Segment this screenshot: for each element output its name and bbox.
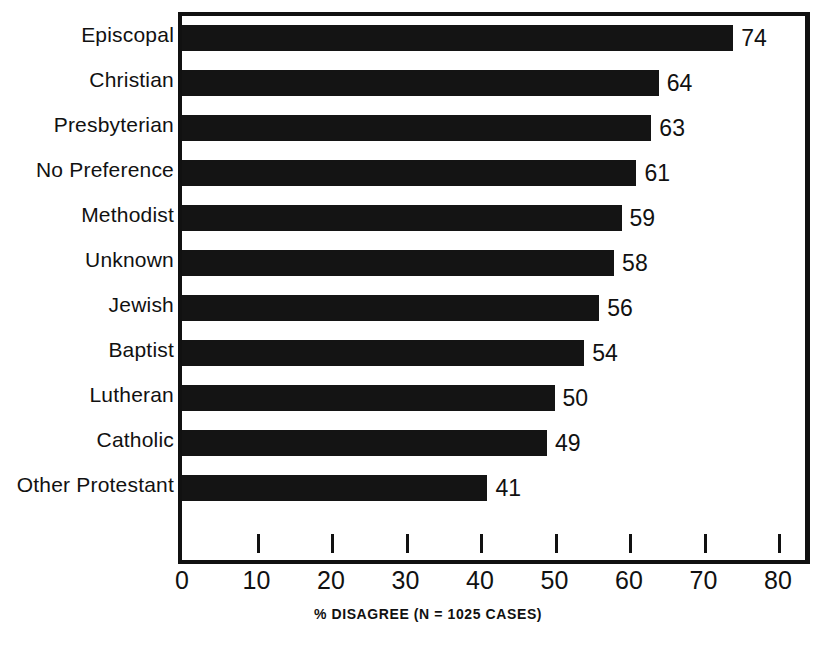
bar-row: Baptist54 bbox=[0, 327, 826, 372]
bar-track: 59 bbox=[182, 192, 812, 237]
category-label: Jewish bbox=[109, 293, 174, 317]
tick-label: 70 bbox=[690, 566, 718, 595]
bar-row: Presbyterian63 bbox=[0, 102, 826, 147]
bar-value-label: 54 bbox=[584, 340, 618, 366]
category-label: Lutheran bbox=[89, 383, 174, 407]
tick-label: 50 bbox=[541, 566, 569, 595]
bar bbox=[182, 160, 636, 186]
bar bbox=[182, 250, 614, 276]
bar bbox=[182, 295, 599, 321]
tick-mark bbox=[704, 534, 707, 553]
bar bbox=[182, 70, 659, 96]
bar-value-label: 63 bbox=[651, 115, 685, 141]
tick-label: 10 bbox=[243, 566, 271, 595]
bar-track: 64 bbox=[182, 57, 812, 102]
bar-chart: Episcopal74Christian64Presbyterian63No P… bbox=[0, 0, 826, 646]
bar-value-label: 61 bbox=[636, 160, 670, 186]
tick-mark bbox=[406, 534, 409, 553]
category-label: Christian bbox=[89, 68, 174, 92]
bar-value-label: 74 bbox=[733, 25, 767, 51]
bar-row: Catholic49 bbox=[0, 417, 826, 462]
category-label: No Preference bbox=[36, 158, 174, 182]
bar-row: Methodist59 bbox=[0, 192, 826, 237]
bar bbox=[182, 25, 733, 51]
category-label: Unknown bbox=[85, 248, 174, 272]
category-label: Baptist bbox=[108, 338, 174, 362]
tick-label: 0 bbox=[175, 566, 189, 595]
bar-track: 61 bbox=[182, 147, 812, 192]
bar-track: 54 bbox=[182, 327, 812, 372]
tick-mark bbox=[555, 534, 558, 553]
bar-value-label: 59 bbox=[622, 205, 656, 231]
tick-mark bbox=[629, 534, 632, 553]
tick-label: 60 bbox=[615, 566, 643, 595]
bar bbox=[182, 340, 584, 366]
category-label: Other Protestant bbox=[17, 473, 174, 497]
bar bbox=[182, 205, 622, 231]
category-label: Episcopal bbox=[81, 23, 174, 47]
tick-label: 30 bbox=[392, 566, 420, 595]
tick-label: 40 bbox=[466, 566, 494, 595]
tick-mark bbox=[257, 534, 260, 553]
bar-track: 63 bbox=[182, 102, 812, 147]
tick-mark bbox=[778, 534, 781, 553]
bar-row: Episcopal74 bbox=[0, 12, 826, 57]
bar-row: Other Protestant41 bbox=[0, 462, 826, 507]
tick-mark bbox=[331, 534, 334, 553]
bar-track: 56 bbox=[182, 282, 812, 327]
tick-mark bbox=[480, 534, 483, 553]
bar-row: Unknown58 bbox=[0, 237, 826, 282]
x-axis-ticks bbox=[182, 534, 812, 562]
category-label: Methodist bbox=[81, 203, 174, 227]
bar-value-label: 56 bbox=[599, 295, 633, 321]
tick-label: 20 bbox=[317, 566, 345, 595]
bar-track: 41 bbox=[182, 462, 812, 507]
bar-track: 74 bbox=[182, 12, 812, 57]
bar bbox=[182, 115, 651, 141]
bar-row: No Preference61 bbox=[0, 147, 826, 192]
bar-value-label: 41 bbox=[487, 475, 521, 501]
bar-track: 50 bbox=[182, 372, 812, 417]
bar-rows: Episcopal74Christian64Presbyterian63No P… bbox=[0, 12, 826, 534]
bar bbox=[182, 385, 555, 411]
category-label: Presbyterian bbox=[54, 113, 174, 137]
bar-value-label: 49 bbox=[547, 430, 581, 456]
bar-track: 49 bbox=[182, 417, 812, 462]
bar bbox=[182, 475, 487, 501]
tick-label: 80 bbox=[764, 566, 792, 595]
bar-row: Lutheran50 bbox=[0, 372, 826, 417]
bar-value-label: 50 bbox=[555, 385, 589, 411]
bar-row: Christian64 bbox=[0, 57, 826, 102]
bar-value-label: 58 bbox=[614, 250, 648, 276]
bar-row: Jewish56 bbox=[0, 282, 826, 327]
bar-value-label: 64 bbox=[659, 70, 693, 96]
x-axis-caption: % DISAGREE (N = 1025 CASES) bbox=[178, 606, 678, 622]
bar bbox=[182, 430, 547, 456]
category-label: Catholic bbox=[97, 428, 174, 452]
bar-track: 58 bbox=[182, 237, 812, 282]
